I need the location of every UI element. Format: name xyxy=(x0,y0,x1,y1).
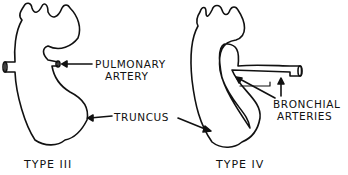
bronchial-label-line2: ARTERIES xyxy=(273,110,340,122)
pulmonary-label-line1: PULMONARY xyxy=(95,58,166,70)
type4-truncus-outline xyxy=(191,6,302,148)
diagram-canvas xyxy=(0,0,348,175)
pulmonary-label-line2: ARTERY xyxy=(95,70,166,82)
type-iv-title: TYPE IV xyxy=(216,158,264,171)
bronchial-label-line1: BRONCHIAL xyxy=(273,98,340,110)
truncus-label: TRUNCUS xyxy=(114,111,169,123)
type-iii-title: TYPE III xyxy=(24,158,72,171)
type3-truncus-outline xyxy=(5,3,88,145)
pulmonary-artery-label: PULMONARY ARTERY xyxy=(95,58,166,82)
bronchial-arteries-label: BRONCHIAL ARTERIES xyxy=(273,98,340,122)
